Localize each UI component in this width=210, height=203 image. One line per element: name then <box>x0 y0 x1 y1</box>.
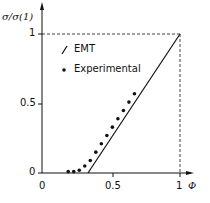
x-axis-arrow-icon <box>186 171 194 175</box>
data-point <box>111 125 115 129</box>
x-tick-1: 1 <box>176 180 182 191</box>
emt-line <box>88 34 180 173</box>
legend-label-emt: EMT <box>74 43 95 54</box>
data-point <box>77 168 81 172</box>
series <box>66 34 180 173</box>
x-tick-0-5: 0.5 <box>105 180 121 191</box>
x-axis-label: Φ <box>188 180 196 191</box>
data-point <box>89 159 93 163</box>
legend-line-icon <box>62 46 67 54</box>
data-point <box>122 109 126 113</box>
data-point <box>83 164 87 168</box>
data-point <box>127 100 131 104</box>
guide-lines <box>42 34 180 173</box>
axes <box>38 2 194 177</box>
data-point <box>72 170 76 174</box>
y-tick-0-5: 0.5 <box>20 97 36 108</box>
data-point <box>105 134 109 138</box>
legend-dot-icon <box>62 68 66 72</box>
legend-label-experimental: Experimental <box>74 63 141 74</box>
y-axis-arrow-icon <box>40 2 44 10</box>
data-point <box>66 170 70 174</box>
data-point <box>94 150 98 154</box>
legend <box>62 46 67 72</box>
data-point <box>100 142 104 146</box>
data-point <box>116 117 120 121</box>
y-tick-1: 1 <box>29 27 35 38</box>
x-tick-0: 0 <box>39 180 45 191</box>
y-tick-0: 0 <box>29 166 35 177</box>
data-point <box>133 92 137 96</box>
y-axis-label: σ/σ(1) <box>2 11 33 22</box>
